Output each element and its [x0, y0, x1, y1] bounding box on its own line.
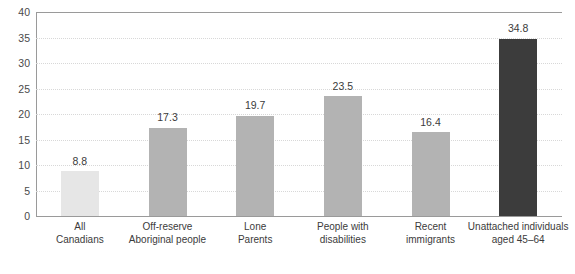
- x-axis-line: [36, 216, 562, 217]
- bar: [61, 171, 99, 216]
- y-axis-tick-label: 30: [2, 58, 30, 69]
- bar-value-label: 19.7: [218, 100, 292, 111]
- category-labels: AllCanadiansOff-reserveAboriginal people…: [36, 221, 562, 266]
- category-label-line1: Lone: [244, 221, 266, 232]
- category-label-line1: Recent: [415, 221, 447, 232]
- bar-group: 19.7: [236, 12, 274, 216]
- y-axis-tick-label: 25: [2, 84, 30, 95]
- bar: [149, 128, 187, 216]
- y-axis-tick-label: 0: [2, 211, 30, 222]
- bar-value-label: 16.4: [394, 117, 468, 128]
- bar-value-label: 17.3: [131, 112, 205, 123]
- category-label-line1: All: [74, 221, 85, 232]
- bar: [236, 116, 274, 216]
- bar-chart: 4035302520151050 8.817.319.723.516.434.8…: [0, 0, 575, 274]
- category-label-line1: People with: [317, 221, 369, 232]
- bar: [412, 132, 450, 216]
- y-axis-tick-label: 35: [2, 33, 30, 44]
- y-axis-tick-label: 40: [2, 7, 30, 18]
- bar-group: 23.5: [324, 12, 362, 216]
- category-label-line2: aged 45–64: [464, 234, 572, 247]
- y-axis-tick-label: 10: [2, 160, 30, 171]
- bar-value-label: 8.8: [43, 156, 117, 167]
- bar-group: 34.8: [499, 12, 537, 216]
- category-label-line1: Unattached individuals: [468, 221, 569, 232]
- bar: [324, 96, 362, 216]
- y-axis-tick-label: 5: [2, 186, 30, 197]
- bars-layer: 8.817.319.723.516.434.8: [36, 12, 562, 216]
- bar-group: 16.4: [412, 12, 450, 216]
- category-label-line1: Off-reserve: [143, 221, 193, 232]
- bar-value-label: 23.5: [306, 81, 380, 92]
- category-label: Unattached individualsaged 45–64: [464, 221, 572, 246]
- y-axis-tick-label: 20: [2, 109, 30, 120]
- bar-value-label: 34.8: [481, 23, 555, 34]
- bar: [499, 39, 537, 216]
- y-axis-tick-label: 15: [2, 135, 30, 146]
- bar-group: 8.8: [61, 12, 99, 216]
- bar-group: 17.3: [149, 12, 187, 216]
